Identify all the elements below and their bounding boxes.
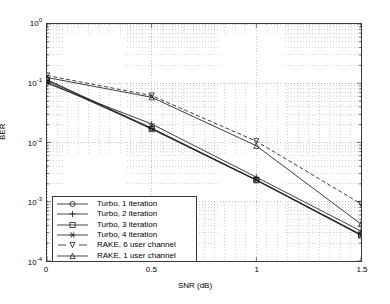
- legend-item-1: Turbo, 2 iteration: [53, 209, 196, 219]
- x-tick-label: 0: [44, 265, 48, 274]
- legend-label: Turbo, 4 iteration: [97, 230, 157, 240]
- y-tick-label: 10-3: [28, 198, 42, 207]
- y-tick-label: 10-2: [28, 138, 42, 147]
- x-tick-label: 1: [254, 265, 258, 274]
- legend-item-0: Turbo, 1 iteration: [53, 199, 196, 209]
- y-axis-title: BER: [0, 124, 7, 140]
- legend-swatch-circle: [53, 199, 93, 209]
- legend-swatch-plus: [53, 209, 93, 219]
- figure: 10010-110-210-310-4 BER 00.511.5 SNR (dB…: [0, 0, 390, 304]
- legend-item-4: RAKE, 6 user channel: [53, 240, 196, 250]
- x-tick-label: 0.5: [146, 265, 157, 274]
- legend-swatch-star: [53, 230, 93, 240]
- legend-swatch-triangle-down: [53, 240, 93, 250]
- legend-item-5: RAKE, 1 user channel: [53, 250, 196, 260]
- legend-label: RAKE, 1 user channel: [97, 251, 176, 261]
- y-tick-label: 10-4: [28, 258, 42, 267]
- x-tick-label: 1.5: [356, 265, 367, 274]
- legend-label: Turbo, 1 iteration: [97, 199, 157, 209]
- y-tick-label: 100: [30, 19, 42, 28]
- legend-swatch-triangle-up: [53, 251, 93, 261]
- y-axis-tick-labels: 10010-110-210-310-4: [0, 0, 44, 304]
- legend-swatch-square: [53, 220, 93, 230]
- x-axis-title: SNR (dB): [0, 281, 390, 290]
- legend-label: Turbo, 3 iteration: [97, 220, 157, 230]
- y-tick-label: 10-1: [28, 78, 42, 87]
- legend-label: RAKE, 6 user channel: [97, 240, 176, 250]
- legend-item-3: Turbo, 4 iteration: [53, 230, 196, 240]
- legend-item-2: Turbo, 3 iteration: [53, 220, 196, 230]
- series-line-4: [47, 76, 361, 204]
- legend: Turbo, 1 iterationTurbo, 2 iterationTurb…: [52, 196, 197, 262]
- legend-label: Turbo, 2 iteration: [97, 209, 157, 219]
